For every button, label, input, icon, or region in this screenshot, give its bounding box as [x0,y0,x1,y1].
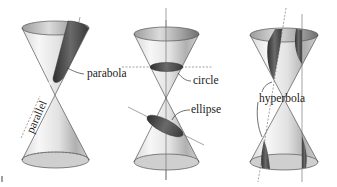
circle-section [150,63,183,72]
circle-leader [178,73,191,81]
upper-nappe [250,28,318,99]
upper-nappe [134,20,199,98]
parabola-label: parabola [87,67,127,80]
hyperbola-label: hyperbola [259,92,305,105]
hyperbola-panel: hyperbola [250,8,318,182]
hyperbola-leader-lower [257,102,262,137]
parabola-panel: parallel parabola [2,17,127,182]
circle-label: circle [193,74,219,86]
circle-ellipse-panel: circle ellipse [122,8,221,180]
lower-nappe [250,99,318,170]
conic-sections-diagram: parallel parabola circle ellipse [0,0,337,187]
ellipse-label: ellipse [191,103,221,116]
parabola-leader [67,68,84,74]
plane-tick [79,17,80,22]
hyperbola-leader-upper [262,82,272,92]
